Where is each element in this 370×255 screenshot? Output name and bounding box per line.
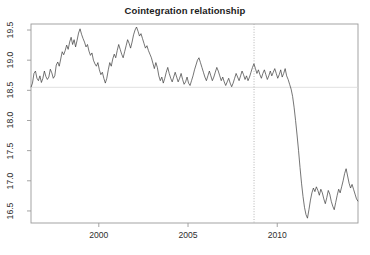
y-tick-label: 17.5 — [5, 138, 15, 164]
y-tick-label: 17.0 — [5, 168, 15, 194]
y-tick-label: 19.5 — [5, 17, 15, 43]
x-tick-label: 2010 — [257, 230, 297, 240]
plot-frame — [31, 24, 358, 223]
x-tick-label: 2005 — [168, 230, 208, 240]
chart-figure: Cointegration relationship 16.517.017.51… — [0, 0, 370, 255]
y-tick-label: 18.0 — [5, 107, 15, 133]
y-tick-label: 19.0 — [5, 47, 15, 73]
y-tick-label: 16.5 — [5, 198, 15, 224]
reference-lines — [31, 24, 358, 223]
y-tick-label: 18.5 — [5, 77, 15, 103]
data-series — [31, 27, 358, 218]
x-tick-label: 2000 — [79, 230, 119, 240]
series-line — [31, 27, 358, 218]
plot-canvas — [0, 0, 370, 255]
